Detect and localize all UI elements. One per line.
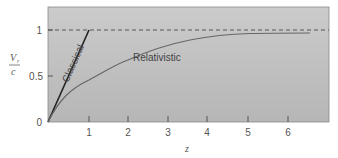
- y-tick-label-05: 0.5: [29, 71, 43, 82]
- x-tick-label: 5: [245, 127, 251, 138]
- y-tick-label-1: 1: [36, 25, 42, 36]
- plot-area: [48, 7, 329, 122]
- x-tick-label: 3: [165, 127, 171, 138]
- y-tick-label-0: 0: [36, 117, 42, 128]
- x-tick-label: 4: [204, 127, 210, 138]
- x-tick-label: 2: [125, 127, 131, 138]
- chart-container: 1 2 3 4 5 6 0 0.5 1 V r c z Classical Re…: [0, 0, 338, 158]
- x-axis-label: z: [184, 143, 189, 154]
- y-axis-label: V r c: [9, 52, 20, 77]
- x-tick-label: 1: [86, 127, 92, 138]
- chart-svg: 1 2 3 4 5 6 0 0.5 1 V r c z Classical Re…: [0, 0, 338, 158]
- svg-text:r: r: [17, 58, 20, 64]
- svg-text:c: c: [11, 66, 16, 77]
- x-tick-label: 6: [285, 127, 291, 138]
- relativistic-label: Relativistic: [133, 52, 181, 63]
